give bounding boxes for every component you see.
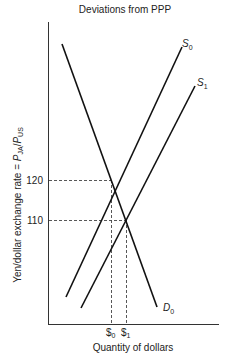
ppp-chart: Deviations from PPP S0 S1 D0 120 110 $0 … <box>0 0 225 363</box>
chart-title: Deviations from PPP <box>79 4 172 15</box>
label-d0: D0 <box>163 302 174 315</box>
x-axis-label: Quantity of dollars <box>93 342 174 353</box>
y-axis-label: Yen/dollar exchange rate = PJA/PUS <box>12 127 24 283</box>
supply-curve-s1 <box>81 86 195 308</box>
label-s1: S1 <box>197 77 208 90</box>
demand-curve-d0 <box>62 44 157 307</box>
x-tick-s0: $0 <box>106 327 116 339</box>
y-tick-120: 120 <box>26 175 43 186</box>
label-s0: S0 <box>182 38 193 51</box>
y-tick-110: 110 <box>27 215 43 226</box>
x-tick-s1: $1 <box>121 327 131 339</box>
curves <box>62 44 195 308</box>
supply-curve-s0 <box>66 47 182 297</box>
